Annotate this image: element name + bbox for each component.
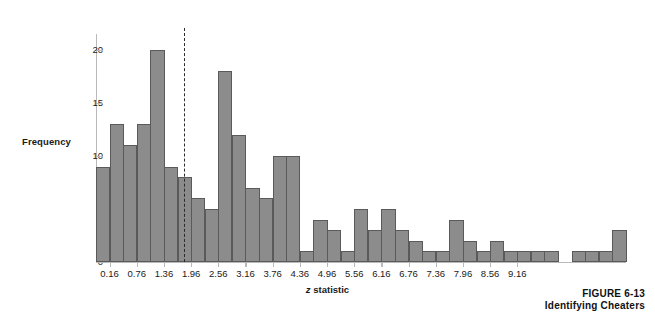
x-axis-tick-mark bbox=[245, 263, 246, 267]
histogram-bar bbox=[313, 220, 327, 262]
figure-caption-number: FIGURE 6-13 bbox=[425, 288, 645, 300]
histogram-bar bbox=[110, 124, 124, 262]
figure-caption: FIGURE 6-13 Identifying Cheaters bbox=[425, 288, 645, 312]
histogram-bar bbox=[218, 71, 232, 262]
x-axis-tick-mark bbox=[137, 263, 138, 267]
histogram-bar bbox=[191, 198, 205, 262]
histogram-bar bbox=[273, 156, 287, 262]
histogram-bar bbox=[150, 50, 164, 262]
x-axis-tick-mark bbox=[354, 263, 355, 267]
critical-value-cutoff-line bbox=[184, 28, 185, 262]
plot-area bbox=[96, 34, 626, 262]
histogram-bar bbox=[436, 251, 450, 262]
histogram-bar bbox=[341, 251, 355, 262]
histogram-bar bbox=[259, 198, 273, 262]
histogram-bar bbox=[137, 124, 151, 262]
x-axis-tick-mark bbox=[463, 263, 464, 267]
histogram-bar bbox=[449, 220, 463, 262]
x-axis-tick-mark bbox=[381, 263, 382, 267]
histogram-bar bbox=[354, 209, 368, 262]
x-axis-title-rest: statistic bbox=[311, 284, 350, 295]
x-axis-tick-mark bbox=[409, 263, 410, 267]
x-axis-tick-mark bbox=[436, 263, 437, 267]
histogram-bar bbox=[395, 230, 409, 262]
histogram-bar bbox=[544, 251, 558, 262]
histogram-bar bbox=[612, 230, 626, 262]
histogram-bar bbox=[205, 209, 219, 262]
y-axis-label: Frequency bbox=[22, 136, 71, 147]
histogram-bar bbox=[286, 156, 300, 262]
x-axis-tick-mark bbox=[164, 263, 165, 267]
histogram-bar bbox=[123, 145, 137, 262]
histogram-bar bbox=[477, 251, 491, 262]
histogram-bar bbox=[531, 251, 545, 262]
x-axis-tick-label: 9.16 bbox=[497, 268, 537, 279]
histogram-bar bbox=[422, 251, 436, 262]
histogram-bar bbox=[463, 241, 477, 262]
x-axis-tick-mark bbox=[517, 263, 518, 267]
histogram-bar bbox=[96, 167, 110, 262]
x-axis-tick-mark bbox=[110, 263, 111, 267]
histogram-bar bbox=[300, 251, 314, 262]
x-axis-tick-mark bbox=[300, 263, 301, 267]
figure-caption-title: Identifying Cheaters bbox=[425, 300, 645, 312]
x-axis-tick-mark bbox=[273, 263, 274, 267]
figure-container: Frequency 05101520 0.160.761.361.962.563… bbox=[0, 0, 655, 320]
x-axis-tick-mark bbox=[327, 263, 328, 267]
histogram-bar bbox=[232, 135, 246, 262]
histogram-bar bbox=[599, 251, 613, 262]
histogram-bar bbox=[327, 230, 341, 262]
x-axis-tick-mark bbox=[218, 263, 219, 267]
histogram-bar bbox=[368, 230, 382, 262]
histogram-bar bbox=[585, 251, 599, 262]
x-axis-line bbox=[96, 262, 626, 263]
histogram-bar bbox=[572, 251, 586, 262]
histogram-bar bbox=[245, 188, 259, 262]
histogram-bar bbox=[517, 251, 531, 262]
histogram-bar bbox=[504, 251, 518, 262]
histogram-bar bbox=[381, 209, 395, 262]
histogram-bar bbox=[409, 241, 423, 262]
histogram-bar bbox=[490, 241, 504, 262]
x-axis-tick-mark bbox=[490, 263, 491, 267]
histogram-bar bbox=[164, 167, 178, 262]
x-axis-tick-mark bbox=[191, 263, 192, 267]
